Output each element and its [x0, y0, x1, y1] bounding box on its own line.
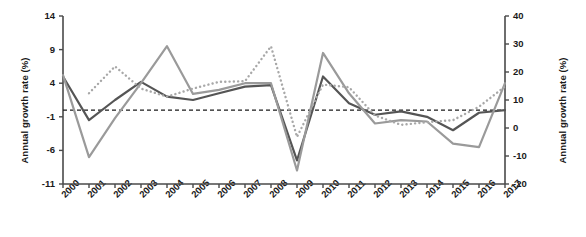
- chart-container: Annual growth rate (%) Annual growth rat…: [0, 0, 586, 237]
- series-gray-solid: [63, 46, 505, 170]
- series-gray-dotted: [89, 46, 505, 137]
- data-series-group: [63, 46, 505, 170]
- chart-plot-area: [0, 0, 586, 237]
